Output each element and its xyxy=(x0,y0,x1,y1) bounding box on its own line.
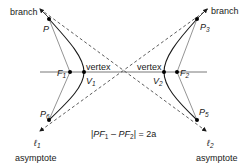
focal-line-P3-F2 xyxy=(177,19,197,72)
label-V2: V2 xyxy=(153,76,163,87)
label-asymptote-right: asymptote xyxy=(196,153,238,163)
label-F1: F1 xyxy=(57,68,67,79)
label-l1: ℓ1 xyxy=(33,138,41,149)
branch-arrow-right xyxy=(197,9,207,19)
focal-line-P-F1 xyxy=(49,19,70,72)
label-branch-left: branch xyxy=(10,7,38,17)
focal-line-P5-F2 xyxy=(177,72,197,120)
label-vertex-left: vertex xyxy=(86,62,111,72)
label-F2: F2 xyxy=(180,68,190,79)
label-vertex-right: vertex xyxy=(137,62,162,72)
label-V1: V1 xyxy=(86,76,96,87)
label-branch-right: branch xyxy=(211,6,239,16)
focus-F1 xyxy=(68,70,72,74)
label-P3: P3 xyxy=(200,22,210,33)
equation-focal-difference: |PF1 – PF2| = 2a xyxy=(91,129,156,140)
label-P: P xyxy=(43,24,49,34)
label-asymptote-left: asymptote xyxy=(15,153,57,163)
focus-F2 xyxy=(175,70,179,74)
label-P6: P6 xyxy=(40,109,50,120)
point-P5 xyxy=(195,118,199,122)
vertex-V2 xyxy=(162,70,166,74)
hyperbola-branch-left xyxy=(49,19,84,120)
label-P5: P5 xyxy=(199,107,209,118)
point-P3 xyxy=(195,17,199,21)
point-P xyxy=(47,17,51,21)
hyperbola-diagram: branch branch vertex vertex asymptote as… xyxy=(0,0,246,166)
focal-line-P6-F1 xyxy=(49,72,70,120)
label-l2: ℓ2 xyxy=(206,138,214,149)
